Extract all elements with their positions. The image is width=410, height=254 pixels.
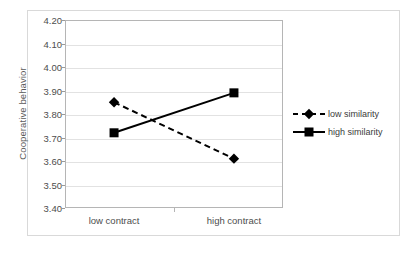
y-axis-tick-label: 4.10 [28, 38, 62, 49]
y-axis-tick-label: 4.20 [28, 15, 62, 26]
y-axis-tick-label: 4.00 [28, 62, 62, 73]
legend-item[interactable]: high similarity [292, 123, 397, 141]
legend-item[interactable]: low similarity [292, 105, 397, 123]
data-point-marker [109, 97, 119, 107]
y-axis-tick-label: 3.60 [28, 156, 62, 167]
legend-item-label: low similarity [326, 109, 379, 119]
data-point-marker [229, 153, 239, 163]
x-axis-tick-label: low contract [89, 215, 140, 226]
series-line-low-similarity [114, 102, 234, 158]
x-axis-tick-mark [174, 208, 175, 212]
x-axis-tick-label: high contract [207, 215, 261, 226]
y-axis-tick-labels: 4.204.104.003.903.803.703.603.503.40 [26, 20, 62, 208]
x-axis-tick-labels: low contracthigh contract [65, 213, 283, 229]
data-point-marker [229, 88, 238, 97]
y-axis-tick-label: 3.50 [28, 179, 62, 190]
data-series-layer [65, 20, 283, 208]
legend-item-label: high similarity [326, 127, 383, 137]
legend-square-marker-icon [292, 125, 326, 139]
y-axis-tick-label: 3.80 [28, 109, 62, 120]
chart-legend: low similarityhigh similarity [292, 105, 397, 141]
interaction-plot-figure: Cooperative behavior 4.204.104.003.903.8… [0, 0, 410, 254]
data-point-marker [110, 128, 119, 137]
y-axis-tick-label: 3.90 [28, 85, 62, 96]
series-line-high-similarity [114, 93, 234, 133]
y-axis-tick-label: 3.40 [28, 203, 62, 214]
y-axis-tick-label: 3.70 [28, 132, 62, 143]
legend-diamond-marker-icon [292, 107, 326, 121]
